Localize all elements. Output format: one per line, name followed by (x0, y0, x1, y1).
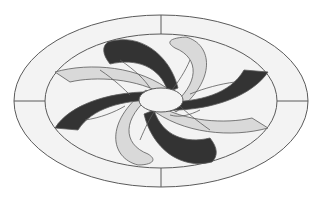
center-ellipse (139, 88, 183, 112)
medallion-canvas: Oval pinwheel medallion pattern (0, 0, 321, 200)
medallion-graphic (0, 0, 321, 200)
